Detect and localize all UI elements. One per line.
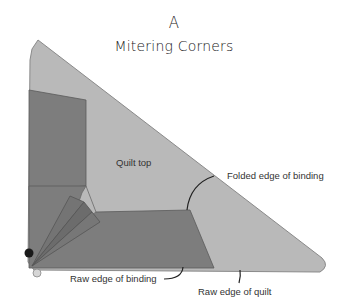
binding-left-strip (29, 90, 86, 190)
label-quilt-top: Quilt top (116, 157, 151, 168)
label-raw-edge-binding: Raw edge of binding (70, 273, 157, 284)
pin-dark-icon (25, 249, 34, 258)
label-folded-edge: Folded edge of binding (227, 170, 324, 181)
label-raw-edge-quilt: Raw edge of quilt (198, 286, 271, 297)
mitering-corner-diagram (0, 0, 348, 304)
raw-edge-quilt-leader (239, 270, 240, 283)
pin-light-icon (33, 269, 41, 277)
